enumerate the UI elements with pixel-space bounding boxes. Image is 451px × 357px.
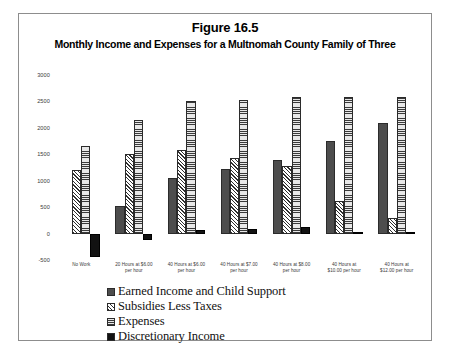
plot-area [55,75,423,260]
bar-solid-black [196,230,205,233]
bar-solid-black [90,234,99,258]
legend-item[interactable]: Discretionary Income [107,329,367,344]
x-axis-tick: 40 Hours at$10.00 per hour [318,262,371,275]
bar-solid-black [406,232,415,234]
bars-layer [55,75,423,260]
figure-number: Figure 16.5 [19,20,431,36]
x-axis-tick: 40 Hours at$12.00 per hour [370,262,423,275]
x-axis-tick: 40 Hours at $7.00per hour [213,262,266,275]
bar-diagonal-hatch [72,170,81,233]
x-axis-tick: 20 Hours at $6.00per hour [108,262,161,275]
bar-solid-dark [326,141,335,234]
bar-horizontal-lines [134,120,143,234]
figure-subtitle: Monthly Income and Expenses for a Multno… [19,37,431,51]
legend-item-label: Discretionary Income [118,329,225,344]
x-axis-tick: 40 Hours at $6.00per hour [160,262,213,275]
y-axis-tick-labels: -500050010001500200025003000 [17,75,50,260]
bar-diagonal-hatch [230,158,239,234]
bar-horizontal-lines [344,97,353,233]
bar-horizontal-lines [239,100,248,233]
figure-frame: Figure 16.5 Monthly Income and Expenses … [18,13,432,341]
bar-group [63,75,100,260]
chart-legend: Earned Income and Child SupportSubsidies… [107,284,367,344]
bar-group [221,75,258,260]
bar-group [326,75,363,260]
bar-horizontal-lines [81,146,90,233]
bar-solid-black [353,232,362,234]
y-axis-tick: 500 [40,204,50,210]
bar-solid-black [248,229,257,233]
y-axis-tick: 2500 [37,98,50,104]
y-axis-tick: 1000 [37,178,50,184]
title-block: Figure 16.5 Monthly Income and Expenses … [19,20,431,51]
bar-solid-dark [115,206,124,233]
legend-swatch-icon [107,333,115,341]
x-axis-tick: 40 Hours at $8.00per hour [265,262,318,275]
legend-item-label: Earned Income and Child Support [118,284,286,299]
legend-item[interactable]: Earned Income and Child Support [107,284,367,299]
bar-solid-black [143,234,152,241]
legend-swatch-icon [107,318,115,326]
legend-swatch-icon [107,288,115,296]
bar-group [378,75,415,260]
legend-item-label: Subsidies Less Taxes [118,299,222,314]
y-axis-tick: 2000 [37,125,50,131]
bar-solid-dark [378,123,387,234]
bar-solid-black [301,227,310,233]
bar-horizontal-lines [186,101,195,233]
bar-group [273,75,310,260]
legend-item[interactable]: Subsidies Less Taxes [107,299,367,314]
bar-horizontal-lines [292,97,301,233]
x-axis-tick-labels: No Work20 Hours at $6.00per hour40 Hours… [55,262,423,280]
y-axis-tick: -500 [38,257,50,263]
bar-group [115,75,152,260]
bar-diagonal-hatch [282,166,291,234]
y-axis-tick: 1500 [37,151,50,157]
bar-horizontal-lines [397,97,406,233]
bar-solid-dark [168,178,177,234]
y-axis-tick: 0 [47,231,50,237]
legend-swatch-icon [107,303,115,311]
bar-diagonal-hatch [125,154,134,233]
bar-diagonal-hatch [177,150,186,234]
legend-item[interactable]: Expenses [107,314,367,329]
bar-solid-dark [221,169,230,233]
legend-item-label: Expenses [118,314,164,329]
bar-diagonal-hatch [335,201,344,234]
x-axis-tick: No Work [55,262,108,268]
y-axis-tick: 3000 [37,72,50,78]
bar-group [168,75,205,260]
bar-solid-dark [273,160,282,234]
bar-diagonal-hatch [388,218,397,234]
